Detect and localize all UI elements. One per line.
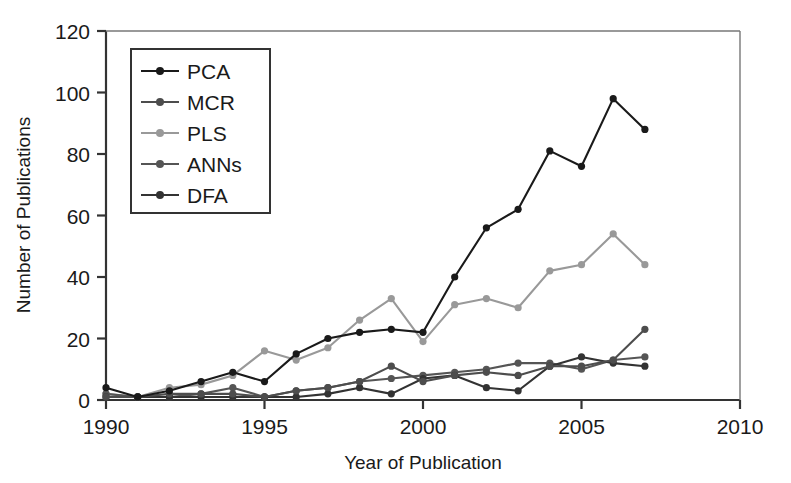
data-point	[324, 390, 331, 397]
y-tick-label: 20	[67, 328, 90, 351]
data-point	[293, 350, 300, 357]
data-point	[641, 126, 648, 133]
y-tick-label: 120	[55, 20, 90, 43]
data-point	[261, 347, 268, 354]
data-point	[546, 147, 553, 154]
y-axis-tick-labels: 020406080100120	[55, 20, 90, 412]
data-point	[546, 267, 553, 274]
data-point	[641, 363, 648, 370]
data-point	[483, 224, 490, 231]
legend-label: ANNs	[187, 153, 242, 176]
legend-swatch-marker	[156, 98, 164, 106]
legend-label: PCA	[187, 60, 230, 83]
data-point	[388, 375, 395, 382]
data-point	[261, 393, 268, 400]
legend-swatch-marker	[156, 160, 164, 168]
chart-container: 19901995200020052010 020406080100120 PCA…	[0, 0, 791, 483]
y-axis-label: Number of Publications	[13, 117, 34, 313]
legend-swatch-marker	[156, 67, 164, 75]
data-point	[356, 378, 363, 385]
series-line	[106, 357, 645, 397]
data-point	[261, 378, 268, 385]
publications-line-chart: 19901995200020052010 020406080100120 PCA…	[0, 0, 791, 483]
data-point	[102, 384, 109, 391]
data-point	[324, 384, 331, 391]
x-tick-label: 1995	[241, 415, 288, 438]
y-tick-label: 100	[55, 82, 90, 105]
data-point	[229, 369, 236, 376]
data-point	[419, 338, 426, 345]
data-point	[578, 163, 585, 170]
legend-swatch-marker	[156, 129, 164, 137]
data-point	[324, 335, 331, 342]
data-point	[293, 387, 300, 394]
data-point	[515, 206, 522, 213]
data-point	[102, 393, 109, 400]
data-point	[515, 387, 522, 394]
data-point	[578, 363, 585, 370]
data-point	[610, 95, 617, 102]
data-point	[198, 378, 205, 385]
data-point	[641, 353, 648, 360]
data-point	[388, 326, 395, 333]
legend-swatch-marker	[156, 191, 164, 199]
data-point	[515, 372, 522, 379]
data-point	[515, 304, 522, 311]
data-point	[388, 295, 395, 302]
y-tick-label: 0	[78, 389, 90, 412]
data-point	[356, 329, 363, 336]
legend-label: MCR	[187, 91, 235, 114]
data-point	[166, 387, 173, 394]
data-point	[515, 360, 522, 367]
data-point	[356, 384, 363, 391]
x-tick-label: 2000	[400, 415, 447, 438]
data-point	[483, 295, 490, 302]
data-point	[324, 344, 331, 351]
y-tick-label: 40	[67, 266, 90, 289]
data-point	[546, 363, 553, 370]
data-point	[419, 378, 426, 385]
data-point	[610, 356, 617, 363]
chart-legend: PCAMCRPLSANNsDFA	[131, 49, 270, 213]
x-axis-tick-labels: 19901995200020052010	[83, 415, 764, 438]
data-point	[229, 390, 236, 397]
x-axis-label: Year of Publication	[344, 452, 502, 473]
data-point	[229, 384, 236, 391]
data-point	[451, 301, 458, 308]
data-point	[610, 230, 617, 237]
y-tick-label: 60	[67, 205, 90, 228]
x-tick-label: 2010	[717, 415, 764, 438]
data-point	[641, 261, 648, 268]
data-point	[451, 273, 458, 280]
legend-label: DFA	[187, 184, 228, 207]
data-point	[641, 326, 648, 333]
data-point	[134, 393, 141, 400]
data-point	[293, 356, 300, 363]
legend-label: PLS	[187, 122, 227, 145]
data-point	[388, 363, 395, 370]
data-point	[356, 316, 363, 323]
data-point	[578, 261, 585, 268]
y-tick-label: 80	[67, 143, 90, 166]
data-point	[293, 393, 300, 400]
data-point	[578, 353, 585, 360]
data-point	[419, 329, 426, 336]
data-point	[483, 369, 490, 376]
data-point	[198, 390, 205, 397]
data-point	[483, 384, 490, 391]
data-point	[388, 390, 395, 397]
x-tick-label: 2005	[558, 415, 605, 438]
x-tick-label: 1990	[83, 415, 130, 438]
series-mcr	[102, 326, 648, 401]
data-point	[451, 372, 458, 379]
series-line	[106, 234, 645, 397]
